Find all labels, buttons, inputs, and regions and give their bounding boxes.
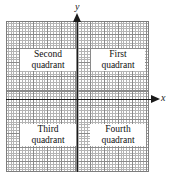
coordinate-plane-figure: x y Second quadrant First quadrant Third… (0, 0, 171, 181)
third-quadrant-label-line2: quadrant (21, 135, 75, 146)
x-axis-label: x (161, 93, 165, 103)
first-quadrant-label-line1: First (92, 49, 144, 60)
second-quadrant-label: Second quadrant (20, 49, 76, 71)
first-quadrant-label: First quadrant (91, 49, 145, 71)
y-axis-line (77, 17, 78, 172)
x-axis-arrowhead-icon (151, 95, 160, 103)
third-quadrant-label-line1: Third (21, 124, 75, 135)
fourth-quadrant-label-line1: Fourth (91, 124, 145, 135)
x-axis-line (6, 99, 152, 100)
fourth-quadrant-label: Fourth quadrant (90, 124, 146, 146)
y-axis-label: y (75, 2, 79, 12)
second-quadrant-label-line1: Second (21, 49, 75, 60)
third-quadrant-label: Third quadrant (20, 124, 76, 146)
y-axis-arrowhead-icon (73, 13, 81, 22)
second-quadrant-label-line2: quadrant (21, 60, 75, 71)
fourth-quadrant-label-line2: quadrant (91, 135, 145, 146)
first-quadrant-label-line2: quadrant (92, 60, 144, 71)
